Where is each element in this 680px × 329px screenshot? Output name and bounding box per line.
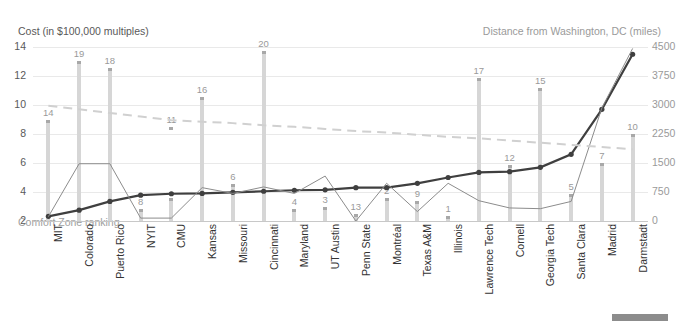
category-label: Cornell — [514, 224, 526, 257]
line-point-marker[interactable] — [169, 191, 174, 196]
category-label: CMU — [175, 224, 187, 248]
line-point-marker[interactable] — [507, 169, 512, 174]
left-axis-tick: 14 — [2, 40, 26, 52]
right-axis-tick: 3000 — [652, 98, 680, 110]
category-label: Georgia Tech — [544, 224, 556, 286]
category-label: Santa Clara — [575, 224, 587, 279]
left-axis-tick: 6 — [2, 156, 26, 168]
line-point-marker[interactable] — [107, 199, 112, 204]
line-point-marker[interactable] — [538, 165, 543, 170]
category-label: Cincinnati — [268, 224, 280, 270]
line-point-marker[interactable] — [138, 193, 143, 198]
line-series-layer — [33, 47, 648, 221]
line-point-marker[interactable] — [200, 191, 205, 196]
category-label: MIT — [52, 224, 64, 242]
right-axis-tick: 0 — [652, 214, 680, 226]
category-label: Missouri — [237, 224, 249, 263]
line-point-marker[interactable] — [569, 152, 574, 157]
line-point-marker[interactable] — [446, 175, 451, 180]
category-label: NYIT — [145, 224, 157, 248]
line-point-marker[interactable] — [261, 189, 266, 194]
right-axis-tick: 4500 — [652, 40, 680, 52]
left-axis-tick: 10 — [2, 98, 26, 110]
left-axis-tick: 12 — [2, 69, 26, 81]
category-label: Maryland — [298, 224, 310, 267]
category-label: Montréal — [391, 224, 403, 265]
line-point-marker[interactable] — [323, 187, 328, 192]
bottom-progress-bar[interactable] — [612, 314, 668, 321]
category-label: Darmstadt — [637, 224, 649, 272]
right-axis-tick: 2250 — [652, 127, 680, 139]
category-label: UT Austin — [329, 224, 341, 269]
line-point-marker[interactable] — [476, 170, 481, 175]
category-label: Texas A&M — [421, 224, 433, 277]
axis-baseline — [33, 221, 648, 222]
category-label: Colorado — [83, 224, 95, 267]
left-axis-tick: 4 — [2, 185, 26, 197]
category-label: Penn State — [360, 224, 372, 276]
plot-area: 1419188166204313291171215571011 — [33, 47, 648, 221]
right-axis-tick: 3750 — [652, 69, 680, 81]
line-point-marker[interactable] — [415, 181, 420, 186]
line-point-marker[interactable] — [77, 208, 82, 213]
category-label: Kansas — [206, 224, 218, 259]
left-axis-tick: 2 — [2, 214, 26, 226]
category-label: Lawrence Tech — [483, 224, 495, 294]
left-axis-tick: 8 — [2, 127, 26, 139]
category-label: Puerto Rico — [114, 224, 126, 279]
right-axis-title: Distance from Washington, DC (miles) — [483, 25, 661, 37]
line-point-marker[interactable] — [230, 190, 235, 195]
line-series — [48, 54, 632, 216]
category-label: Illinois — [452, 224, 464, 253]
line-point-marker[interactable] — [353, 185, 358, 190]
right-axis-tick: 750 — [652, 185, 680, 197]
category-label: Madrid — [606, 224, 618, 256]
right-axis-tick: 1500 — [652, 156, 680, 168]
line-series — [48, 106, 632, 150]
left-axis-title: Cost (in $100,000 multiples) — [18, 25, 149, 37]
category-axis-labels: MITColoradoPuerto RicoNYITCMUKansasMisso… — [33, 224, 648, 324]
